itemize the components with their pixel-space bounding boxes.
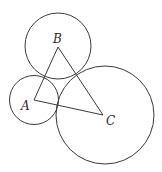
tangent-circles-diagram: A B C [0, 0, 162, 172]
label-a: A [20, 99, 30, 113]
label-c: C [106, 114, 115, 128]
triangle-abc [34, 47, 103, 115]
label-b: B [52, 32, 62, 46]
circle-b [25, 13, 91, 79]
circle-c [56, 66, 154, 164]
